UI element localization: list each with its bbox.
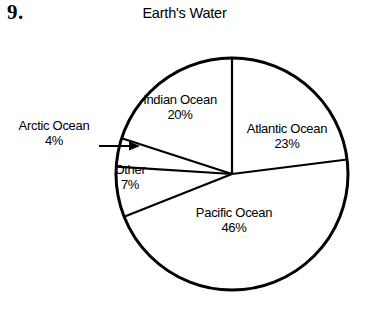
slice-label-other-percent: 7% — [104, 177, 156, 192]
slice-label-pacific-ocean-percent: 46% — [175, 220, 293, 235]
slice-label-arctic-ocean: Arctic Ocean 4% — [2, 118, 106, 148]
slice-label-atlantic-ocean-name: Atlantic Ocean — [247, 121, 327, 136]
slice-label-other: Other 7% — [104, 162, 156, 192]
slice-label-atlantic-ocean-percent: 23% — [228, 136, 346, 151]
slice-label-indian-ocean: Indian Ocean 20% — [126, 92, 234, 122]
slice-label-atlantic-ocean: Atlantic Ocean 23% — [228, 121, 346, 151]
pie-graphic — [0, 0, 369, 313]
slice-label-pacific-ocean: Pacific Ocean 46% — [175, 205, 293, 235]
slice-label-indian-ocean-percent: 20% — [126, 107, 234, 122]
pie-chart-figure: 9. Earth's Water Indian Ocean 20% Atlant… — [0, 0, 369, 313]
slice-label-indian-ocean-name: Indian Ocean — [143, 92, 217, 107]
slice-label-arctic-ocean-percent: 4% — [2, 133, 106, 148]
slice-label-arctic-ocean-name: Arctic Ocean — [19, 118, 90, 133]
slice-label-other-name: Other — [114, 162, 145, 177]
slice-label-pacific-ocean-name: Pacific Ocean — [196, 205, 272, 220]
